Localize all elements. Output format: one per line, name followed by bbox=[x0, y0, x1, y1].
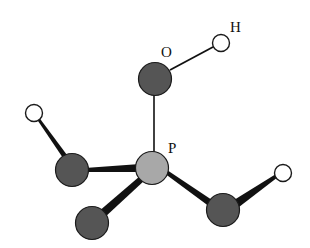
bond-p-o-left bbox=[85, 164, 140, 172]
label-oxygen: O bbox=[161, 44, 172, 60]
atoms bbox=[26, 35, 292, 240]
oxygen-atom-left bbox=[56, 154, 89, 187]
hydrogen-atom-top bbox=[213, 35, 230, 52]
phosphorus-atom bbox=[136, 152, 169, 185]
hydrogen-atom-left bbox=[26, 105, 43, 122]
label-phosphorus: P bbox=[168, 140, 176, 156]
molecule-diagram: O H P bbox=[0, 0, 310, 248]
hydrogen-atom-right bbox=[275, 165, 292, 182]
oxygen-atom-top bbox=[139, 63, 172, 96]
bond-p-o-right bbox=[164, 170, 215, 207]
bond-p-o-bottom bbox=[98, 176, 145, 218]
bond-o-h-left bbox=[36, 116, 67, 158]
bond-o-h-right bbox=[234, 174, 278, 207]
oxygen-atom-right bbox=[207, 194, 240, 227]
oxygen-atom-bottom bbox=[76, 207, 109, 240]
bond-o-h-top bbox=[170, 47, 213, 70]
label-hydrogen: H bbox=[230, 19, 241, 35]
